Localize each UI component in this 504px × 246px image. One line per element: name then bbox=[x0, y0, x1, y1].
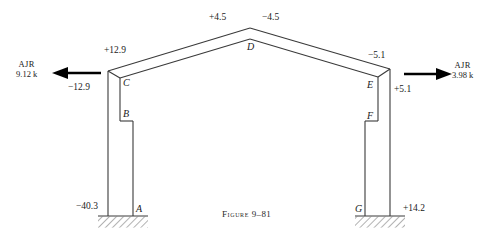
joint-label-e: E bbox=[367, 79, 373, 91]
right-column bbox=[365, 69, 390, 216]
joint-label-a: A bbox=[136, 203, 142, 215]
right-arrow-head bbox=[436, 68, 452, 80]
moment-right-rafter-near-knee: −5.1 bbox=[368, 50, 385, 61]
joint-label-b: B bbox=[123, 108, 129, 120]
left-reaction-label: AJR 9.12 k bbox=[16, 60, 37, 80]
moment-left-column-top: −12.9 bbox=[68, 82, 90, 93]
right-reaction-magnitude: 3.98 k bbox=[452, 71, 473, 81]
moment-apex-left: +4.5 bbox=[209, 12, 226, 23]
right-arrow-icon bbox=[404, 68, 452, 80]
right-fixed-support bbox=[355, 216, 405, 228]
right-rafter-bottom-chord bbox=[250, 39, 378, 77]
figure-caption-number: 9–81 bbox=[252, 209, 271, 219]
figure-container: +4.5 −4.5 +12.9 −12.9 −5.1 +5.1 −40.3 +1… bbox=[0, 0, 504, 246]
joint-label-f: F bbox=[367, 110, 373, 122]
moment-left-base: −40.3 bbox=[76, 201, 98, 212]
left-rafter-top-chord bbox=[108, 28, 250, 71]
figure-caption: Figure 9–81 bbox=[222, 209, 271, 219]
left-fixed-support bbox=[98, 216, 148, 228]
left-arrow-icon bbox=[52, 67, 101, 79]
right-support-hatching bbox=[355, 217, 405, 228]
joint-label-c: C bbox=[123, 77, 130, 89]
joint-label-g: G bbox=[355, 203, 362, 215]
moment-right-base: +14.2 bbox=[403, 203, 425, 214]
left-rafter-bottom-chord bbox=[120, 39, 250, 78]
moment-right-column-top: +5.1 bbox=[394, 84, 411, 95]
moment-apex-right: −4.5 bbox=[262, 12, 279, 23]
left-knee-joint bbox=[108, 71, 120, 78]
left-arrow-head bbox=[52, 67, 68, 79]
right-knee-cap bbox=[378, 69, 390, 77]
left-column bbox=[108, 71, 133, 216]
right-reaction-label: AJR 3.98 k bbox=[452, 61, 473, 81]
left-reaction-magnitude: 9.12 k bbox=[16, 70, 37, 80]
joint-label-d: D bbox=[247, 41, 254, 53]
figure-caption-word: Figure bbox=[222, 209, 249, 219]
left-support-hatching bbox=[98, 217, 148, 228]
moment-left-rafter-near-knee: +12.9 bbox=[104, 45, 126, 56]
left-rafter bbox=[108, 28, 250, 78]
right-rafter-top-chord bbox=[250, 28, 390, 69]
right-knee-joint bbox=[378, 69, 390, 77]
left-knee-cap bbox=[108, 71, 120, 78]
